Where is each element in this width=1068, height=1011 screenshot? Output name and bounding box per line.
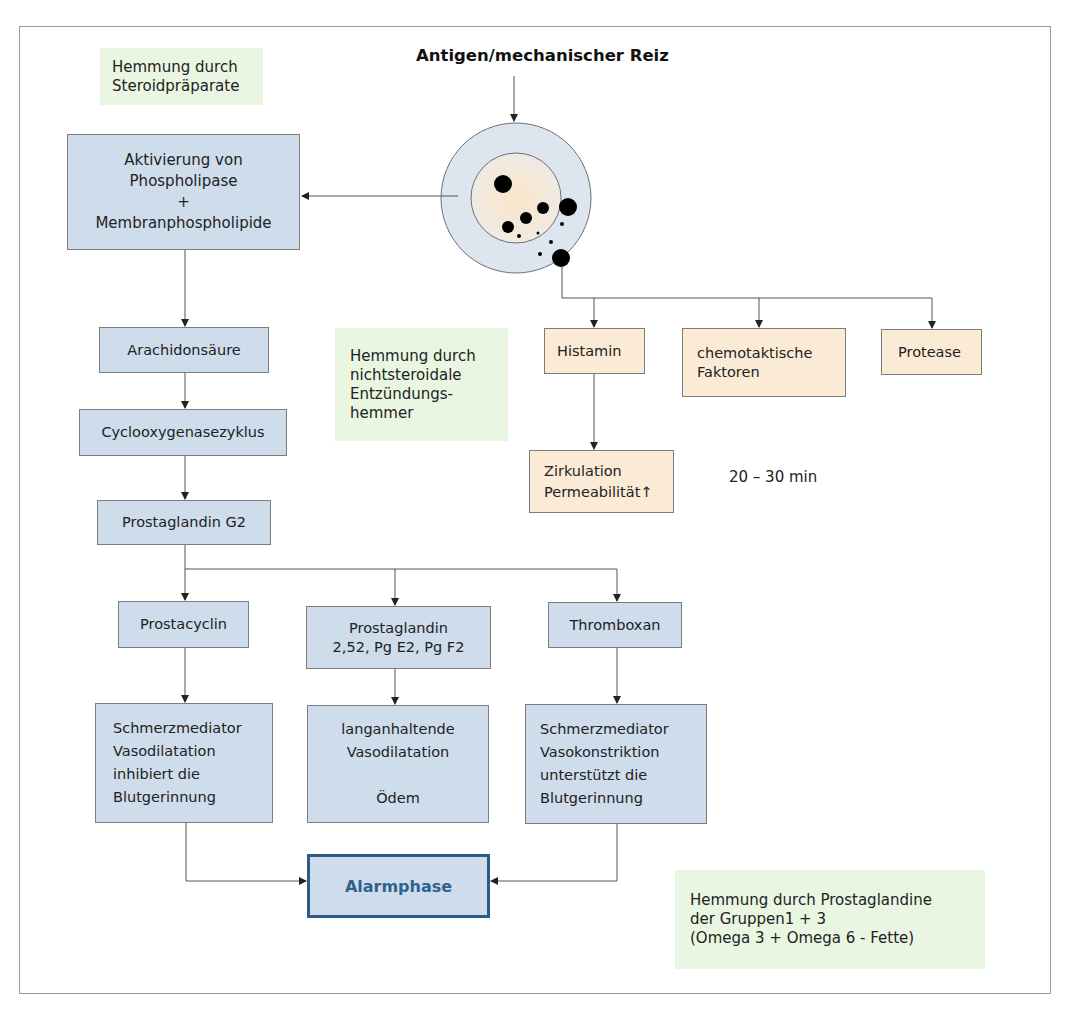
inhibition-line: Steroidpräparate: [112, 77, 263, 96]
node-histamin-effect: Zirkulation Permeabilität↑: [529, 450, 674, 513]
effect-line: Vasokonstriktion: [540, 741, 659, 764]
node-line: Phospholipase: [130, 171, 238, 192]
inhibition-line: Hemmung durch Prostaglandine: [690, 891, 985, 910]
node-line: Permeabilität↑: [544, 482, 673, 503]
node-line: Faktoren: [697, 363, 845, 382]
effect-line: Ödem: [376, 787, 420, 810]
inhibition-nsaid: Hemmung durch nichtsteroidale Entzündung…: [335, 328, 508, 441]
node-histamin: Histamin: [544, 328, 645, 374]
node-thromboxan: Thromboxan: [548, 602, 682, 648]
effect-line: Blutgerinnung: [113, 786, 216, 809]
node-prostacyclin: Prostacyclin: [118, 601, 249, 648]
inhibition-prostaglandins: Hemmung durch Prostaglandine der Gruppen…: [675, 870, 985, 969]
node-chemotactic-factors: chemotaktische Faktoren: [682, 328, 846, 397]
node-arachidonsaeure: Arachidonsäure: [99, 327, 269, 373]
inhibition-line: Entzündungs-: [350, 385, 508, 404]
node-line: Zirkulation: [544, 461, 673, 482]
effect-prostaglandin: langanhaltende Vasodilatation Ödem: [307, 705, 489, 823]
stimulus-title: Antigen/mechanischer Reiz: [416, 46, 669, 65]
effect-line: unterstützt die: [540, 764, 647, 787]
effect-prostacyclin: Schmerzmediator Vasodilatation inhibiert…: [95, 703, 273, 823]
effect-thromboxan: Schmerzmediator Vasokonstriktion unterst…: [525, 704, 707, 824]
inhibition-line: Hemmung durch: [350, 347, 508, 366]
inhibition-line: hemmer: [350, 404, 508, 423]
effect-line: langanhaltende: [341, 718, 454, 741]
node-label: Arachidonsäure: [127, 341, 240, 360]
node-line: chemotaktische: [697, 344, 845, 363]
node-line: Aktivierung von: [124, 150, 242, 171]
effect-line: inhibiert die: [113, 763, 200, 786]
node-alarmphase: Alarmphase: [307, 854, 490, 918]
node-protease: Protease: [881, 329, 982, 375]
node-label: Prostaglandin G2: [122, 513, 246, 532]
node-prostaglandin-g2: Prostaglandin G2: [97, 500, 271, 545]
node-label: Prostacyclin: [140, 615, 227, 634]
inhibition-line: der Gruppen1 + 3: [690, 910, 985, 929]
node-line: 2,52, Pg E2, Pg F2: [333, 638, 465, 657]
outcome-label: Alarmphase: [345, 877, 452, 896]
node-phospholipase: Aktivierung von Phospholipase + Membranp…: [67, 134, 300, 250]
node-line: Prostaglandin: [349, 619, 448, 638]
inhibition-line: Hemmung durch: [112, 58, 263, 77]
effect-line: Vasodilatation: [113, 740, 216, 763]
node-label: Histamin: [557, 342, 644, 361]
node-line: +: [177, 192, 190, 213]
inhibition-line: (Omega 3 + Omega 6 - Fette): [690, 929, 985, 948]
inhibition-line: nichtsteroidale: [350, 366, 508, 385]
node-label: Thromboxan: [570, 616, 661, 635]
node-prostaglandin: Prostaglandin 2,52, Pg E2, Pg F2: [306, 606, 491, 669]
effect-line: Schmerzmediator: [113, 717, 242, 740]
inhibition-steroid: Hemmung durch Steroidpräparate: [100, 48, 263, 105]
node-label: Cyclooxygenasezyklus: [101, 423, 264, 442]
timing-label: 20 – 30 min: [729, 468, 817, 486]
effect-line: Vasodilatation: [347, 741, 450, 764]
effect-line: Blutgerinnung: [540, 787, 643, 810]
node-label: Protease: [898, 343, 981, 362]
node-line: Membranphospholipide: [95, 213, 271, 234]
mast-cell-icon: [441, 123, 591, 273]
node-cyclooxygenase: Cyclooxygenasezyklus: [79, 409, 287, 456]
effect-line: Schmerzmediator: [540, 718, 669, 741]
